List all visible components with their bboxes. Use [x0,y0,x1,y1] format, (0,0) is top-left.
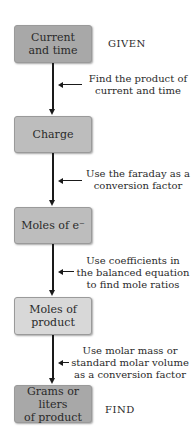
arrow-left-icon [62,84,82,85]
node-label-line1: Current [28,31,77,44]
find-label: FIND [105,404,135,415]
note-line: conversion factor [84,180,192,192]
node-current-and-time: Current and time [14,25,92,63]
connector-2 [52,153,54,201]
note-line: to find mole ratios [74,279,192,291]
node-moles-of-electrons: Moles of e⁻ [14,207,92,244]
node-charge: Charge [14,116,92,153]
step-note-2: Use the faraday as a conversion factor [84,168,192,192]
step-note-4: Use molar mass or standard molar volume … [68,345,192,381]
arrowhead-down-icon [49,290,55,296]
step-note-1: Find the product of current and time [86,73,190,97]
note-line: Use molar mass or [68,345,192,357]
node-label-line1: Grams or liters [15,385,91,411]
node-label-line2: product [29,316,77,329]
note-line: Use coefficients in [74,255,192,267]
node-label: Moles of e⁻ [21,219,85,232]
arrow-left-icon [62,180,82,181]
note-line: standard molar volume [68,357,192,369]
connector-4 [52,335,54,379]
node-label-line1: Moles of [29,303,77,316]
note-line: current and time [86,85,190,97]
given-label: GIVEN [108,38,146,49]
note-line: the balanced equation [74,267,192,279]
connector-1 [52,63,54,110]
arrowhead-down-icon [49,109,55,115]
arrowhead-down-icon [49,200,55,206]
arrow-left-icon [62,271,74,272]
arrowhead-down-icon [49,378,55,384]
node-label: Charge [33,128,74,141]
node-label-line2: of product [15,411,91,424]
note-line: Use the faraday as a [84,168,192,180]
note-line: as a conversion factor [68,369,192,381]
node-grams-or-liters-of-product: Grams or liters of product [14,385,92,423]
node-moles-of-product: Moles of product [14,297,92,335]
node-label-line2: and time [28,44,77,57]
note-line: Find the product of [86,73,190,85]
connector-3 [52,244,54,291]
step-note-3: Use coefficients in the balanced equatio… [74,255,192,291]
